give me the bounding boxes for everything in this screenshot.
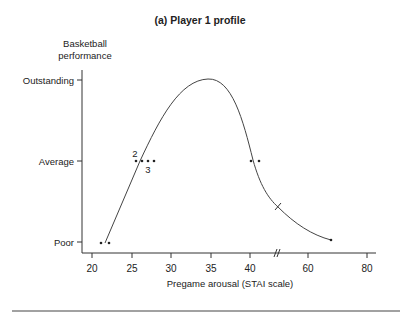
data-point (147, 160, 150, 163)
x-tick-label: 80 (361, 263, 373, 274)
data-point (135, 160, 138, 163)
x-tick-label: 30 (165, 263, 177, 274)
count-annotation-3: 3 (145, 164, 150, 175)
performance-curve (105, 79, 331, 243)
data-point (250, 160, 253, 163)
data-point (258, 160, 261, 163)
x-tick-label: 40 (244, 263, 256, 274)
y-label-outstanding: Outstanding (23, 75, 74, 86)
y-label-poor: Poor (54, 237, 74, 248)
x-tick-label: 35 (205, 263, 217, 274)
data-points (100, 160, 333, 245)
y-label-average: Average (39, 156, 74, 167)
x-tick-label: 20 (86, 263, 98, 274)
x-tick-label: 60 (302, 263, 314, 274)
data-point (141, 160, 144, 163)
data-point (108, 242, 111, 245)
x-tick-label: 25 (126, 263, 138, 274)
data-point (330, 239, 333, 242)
data-point (153, 160, 156, 163)
y-axis (77, 70, 82, 253)
data-point (100, 242, 103, 245)
count-annotation-2: 2 (132, 148, 137, 159)
x-axis (82, 253, 376, 258)
chart-plot: Outstanding Average Poor 20 25 30 35 40 … (0, 0, 400, 318)
